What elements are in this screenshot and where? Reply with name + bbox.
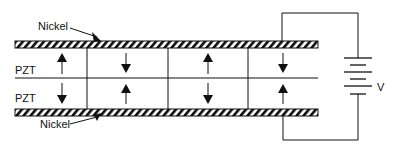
arrow-up-icon — [278, 84, 288, 104]
battery-icon — [344, 58, 372, 94]
arrow-up-icon — [57, 53, 67, 74]
arrow-up-icon — [203, 53, 213, 74]
nickel-bottom-layer — [15, 109, 318, 116]
arrow-down-icon — [278, 53, 288, 73]
circuit-wire — [282, 13, 358, 140]
nickel-top-label: Nickel — [38, 20, 68, 32]
nickel-bottom-label: Nickel — [40, 118, 70, 130]
arrow-down-icon — [57, 83, 67, 104]
arrow-down-icon — [121, 53, 131, 73]
arrow-down-icon — [203, 83, 213, 104]
nickel-top-layer — [15, 41, 318, 48]
pzt-top-label: PZT — [15, 64, 36, 76]
pzt-bottom-label: PZT — [15, 92, 36, 104]
arrow-up-icon — [121, 84, 131, 104]
bimorph-diagram: Nickel Nickel PZT PZT V — [0, 0, 394, 151]
voltage-label: V — [377, 81, 385, 93]
